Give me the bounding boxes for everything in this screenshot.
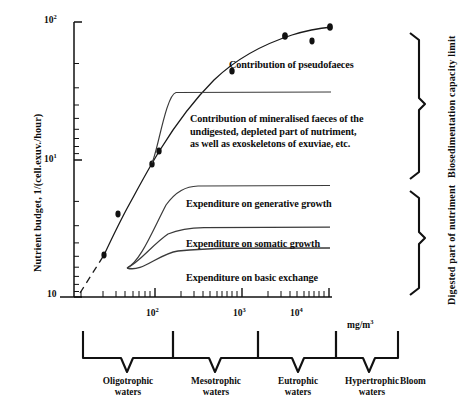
figure-container: 102 101 10 Nutrient budget, 1/(cell.exuv… <box>0 0 464 410</box>
trophic-band-mesotrophic: Mesotrophic waters <box>172 376 260 398</box>
trophic-mesotrophic-line1: Mesotrophic <box>172 376 260 387</box>
trophic-bloom-line1: Bloom <box>400 376 452 387</box>
faeces-line-1: Contribution of mineralised faeces of th… <box>190 113 412 126</box>
x-tick-label-2: 103 <box>233 306 246 318</box>
y-tick-label-mid: 101 <box>44 152 57 164</box>
trophic-band-oligotrophic: Oligotrophic waters <box>84 376 172 398</box>
trophic-oligotrophic-line1: Oligotrophic <box>84 376 172 387</box>
trophic-band-bracket <box>83 331 398 372</box>
trophic-band-bloom: Bloom <box>400 376 452 387</box>
x-tick-label-1: 102 <box>146 306 159 318</box>
x-axis <box>60 288 332 297</box>
x-axis-unit-label: mg/m3 <box>347 318 373 330</box>
curve-total-dashed-extension <box>80 255 104 293</box>
trophic-oligotrophic-line2: waters <box>84 387 172 398</box>
annotation-mineralised-faeces: Contribution of mineralised faeces of th… <box>190 113 412 151</box>
curve-basic-exchange <box>127 248 330 269</box>
trophic-band-eutrophic: Eutrophic waters <box>258 376 338 398</box>
annotation-somatic-growth: Expenditure on somatic growth <box>186 238 320 251</box>
faeces-line-3: as well as exoskeletons of exuviae, etc. <box>190 138 412 151</box>
y-axis-title: Nutrient budget, 1/(cell.exuv./hour) <box>32 114 43 272</box>
faeces-line-2: undigested, depleted part of nutriment, <box>190 126 412 139</box>
y-axis <box>74 22 82 297</box>
bracket-upper <box>410 33 425 179</box>
bracket-lower <box>410 191 425 295</box>
trophic-eutrophic-line1: Eutrophic <box>258 376 338 387</box>
x-tick-label-3: 104 <box>290 306 303 318</box>
y-tick-label-top: 102 <box>44 13 57 25</box>
annotation-basic-exchange: Expenditure on basic exchange <box>186 272 318 285</box>
annotation-generative-growth: Expenditure on generative growth <box>186 198 332 211</box>
annotation-pseudofaeces: Contribution of pseudofaeces <box>229 59 354 72</box>
trophic-eutrophic-line2: waters <box>258 387 338 398</box>
bracket-label-digested: Digested part of nutriment <box>446 185 457 305</box>
trophic-mesotrophic-line2: waters <box>172 387 260 398</box>
bracket-label-biosedimentation: Biosedimentation capacity limit <box>446 36 457 178</box>
y-tick-label-bottom: 10 <box>47 289 57 299</box>
trophic-hypertrophic-line2: waters <box>332 387 412 398</box>
